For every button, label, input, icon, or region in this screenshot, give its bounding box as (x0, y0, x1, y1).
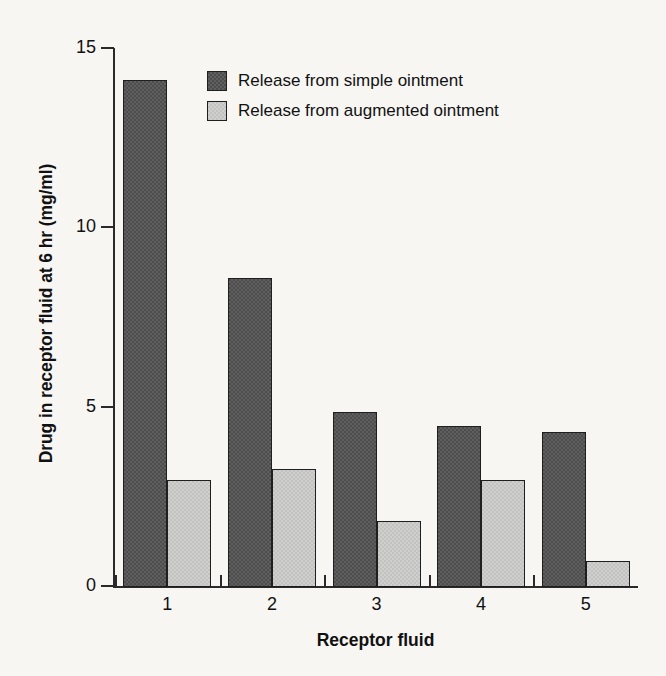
bar-4-series-0 (437, 426, 481, 587)
bar-5-series-0 (542, 432, 586, 587)
x-tick-mark (324, 575, 326, 587)
legend-item: Release from augmented ointment (207, 96, 499, 126)
bar-1-series-1 (167, 480, 211, 587)
bar-4-series-1 (481, 480, 525, 587)
x-tick-label: 5 (556, 594, 616, 615)
x-tick-label: 3 (347, 594, 407, 615)
chart-legend: Release from simple ointmentRelease from… (207, 66, 499, 126)
x-tick-label: 2 (242, 594, 302, 615)
y-tick-mark (101, 585, 114, 587)
x-tick-mark (220, 575, 222, 587)
bar-5-series-1 (586, 561, 630, 587)
x-tick-label: 4 (451, 594, 511, 615)
y-tick-label: 10 (0, 216, 96, 237)
bar-2-series-1 (272, 469, 316, 587)
x-tick-label: 1 (137, 594, 197, 615)
legend-swatch-icon (207, 101, 227, 121)
legend-swatch-icon (207, 71, 227, 91)
y-tick-label: 5 (0, 396, 96, 417)
bar-2-series-0 (228, 278, 272, 587)
y-tick-label: 0 (0, 575, 96, 596)
legend-label: Release from simple ointment (238, 71, 463, 91)
legend-item: Release from simple ointment (207, 66, 499, 96)
y-axis-line (113, 48, 115, 588)
y-axis-title: Drug in receptor fluid at 6 hr (mg/ml) (36, 54, 57, 574)
bar-3-series-0 (333, 412, 377, 587)
bar-chart-figure: Drug in receptor fluid at 6 hr (mg/ml) 0… (0, 0, 666, 676)
x-tick-mark (115, 575, 117, 587)
x-tick-mark (429, 575, 431, 587)
legend-label: Release from augmented ointment (238, 101, 499, 121)
x-axis-title: Receptor fluid (113, 630, 638, 651)
y-tick-label: 15 (0, 37, 96, 58)
y-tick-mark (101, 406, 114, 408)
bar-1-series-0 (123, 80, 167, 587)
y-tick-mark (101, 47, 114, 49)
x-tick-mark (533, 575, 535, 587)
bar-3-series-1 (377, 521, 421, 587)
y-tick-mark (101, 226, 114, 228)
